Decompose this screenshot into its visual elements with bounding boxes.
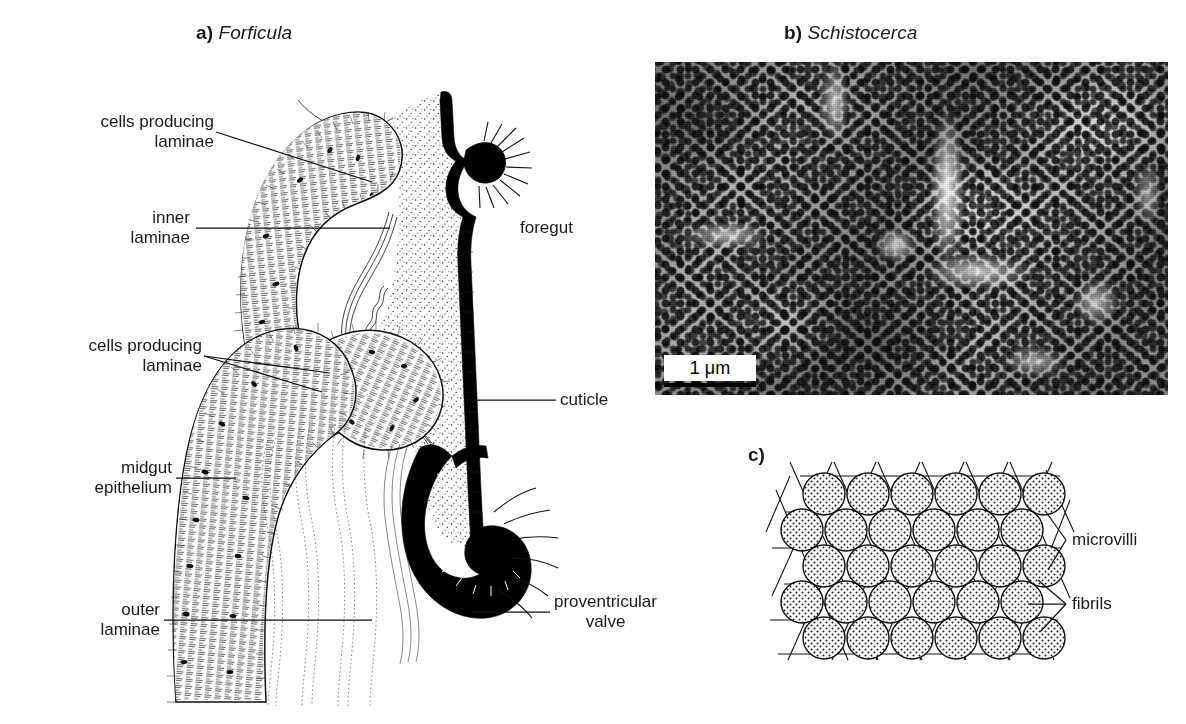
fibril-lines-diagonal-b [766, 462, 1070, 660]
foregut-cuticle [440, 91, 532, 544]
mid-laminae-fold [267, 294, 481, 496]
laminae-tail-strands [384, 444, 419, 664]
fibril-lines-diagonal-a [776, 462, 1074, 660]
leader-cells-producing-laminae-lower-1 [204, 356, 330, 373]
panel-a-tag: a) [196, 22, 213, 43]
label-cells-producing-laminae-upper: cells producing laminae [4, 112, 214, 152]
panel-a-leaders [164, 132, 556, 620]
label-cuticle: cuticle [560, 390, 608, 410]
inner-laminae-strands [342, 212, 436, 449]
outer-laminae-strands [262, 420, 377, 706]
scale-bar-label: 1 μm [664, 355, 756, 381]
fibril-lines-horizontal [770, 476, 1062, 654]
leader-fibrils-2 [1040, 604, 1066, 632]
label-fibrils: fibrils [1072, 594, 1112, 614]
leader-cells-producing-laminae-upper [216, 132, 372, 182]
panel-a-taxon: Forficula [219, 22, 293, 43]
panel-b-tag: b) [784, 22, 802, 43]
micrograph-vignette [655, 62, 1168, 395]
label-microvilli: microvilli [1072, 530, 1137, 550]
panel-c-leaders [1028, 512, 1066, 632]
panel-b-taxon: Schistocerca [808, 22, 918, 43]
panel-a-title: a) Forficula [196, 22, 292, 44]
leader-microvilli-2 [1048, 540, 1066, 570]
sem-micrograph-image [655, 62, 1168, 395]
label-foregut: foregut [520, 218, 573, 238]
leader-microvilli-1 [1046, 512, 1066, 540]
label-outer-laminae: outer laminae [4, 600, 160, 640]
label-midgut-epithelium: midgut epithelium [4, 458, 172, 498]
foregut-body [298, 92, 482, 546]
panel-c-tag: c) [748, 444, 765, 466]
cuticle-spines [464, 122, 532, 208]
proventricular-valve [402, 445, 558, 619]
label-cells-producing-laminae-lower: cells producing laminae [4, 336, 202, 376]
microvilli-circles [781, 473, 1065, 659]
upper-epithelium-fringe [234, 112, 385, 450]
label-inner-laminae: inner laminae [4, 208, 190, 248]
scale-bar-line [664, 383, 756, 387]
figure-root: a) Forficula b) Schistocerca c) 1 μm [0, 0, 1186, 724]
leader-cells-producing-laminae-lower-2 [204, 356, 322, 392]
label-proventricular-valve: proventricular valve [554, 592, 657, 632]
upper-midgut-epithelium [212, 91, 449, 470]
leader-fibrils-3 [1038, 580, 1066, 604]
scale-bar: 1 μm [664, 355, 756, 387]
panel-b-title: b) Schistocerca [784, 22, 918, 44]
